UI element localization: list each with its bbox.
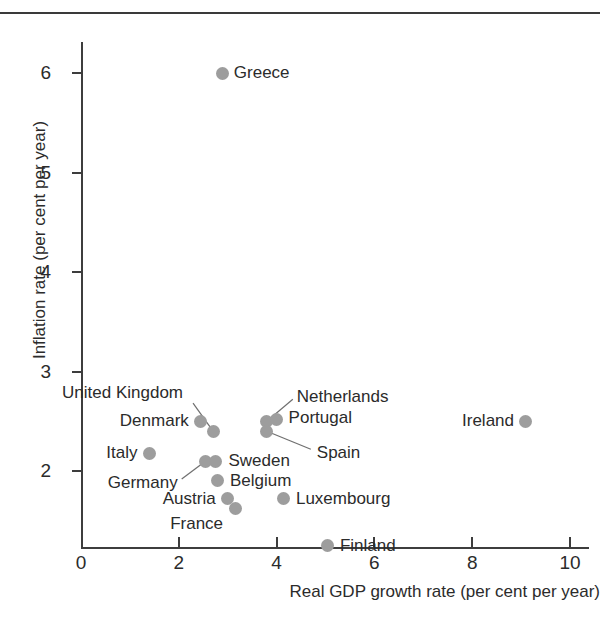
y-tick-label-2: 2 — [25, 461, 51, 480]
x-axis-title: Real GDP growth rate (per cent per year) — [0, 582, 600, 602]
x-tick-label-8: 8 — [452, 553, 492, 572]
data-point-portugal — [270, 413, 283, 426]
data-point-united-kingdom — [207, 425, 220, 438]
y-axis-line — [81, 42, 83, 549]
y-tick-2 — [72, 470, 83, 472]
data-point-belgium — [211, 474, 224, 487]
data-point-ireland — [519, 415, 532, 428]
point-label-sweden: Sweden — [228, 451, 289, 470]
point-label-netherlands: Netherlands — [297, 387, 389, 406]
point-label-austria: Austria — [163, 489, 216, 508]
point-label-italy: Italy — [106, 443, 137, 462]
point-label-portugal: Portugal — [289, 408, 352, 427]
point-label-luxembourg: Luxembourg — [296, 489, 391, 508]
point-label-france: France — [170, 514, 223, 533]
x-tick-8 — [471, 537, 473, 548]
label-leader-lines — [0, 0, 607, 618]
point-label-finland: Finland — [340, 536, 396, 555]
scatter-plot-figure: 23456 0246810 GreeceIrelandDenmarkUnited… — [0, 0, 607, 618]
x-tick-label-6: 6 — [354, 553, 394, 572]
data-point-finland — [321, 539, 334, 552]
y-axis-title: Inflation rate (per cent per year) — [30, 80, 50, 400]
x-tick-label-0: 0 — [61, 553, 101, 572]
point-label-greece: Greece — [234, 63, 290, 82]
data-point-spain — [260, 425, 273, 438]
point-label-united-kingdom: United Kingdom — [62, 383, 183, 402]
x-tick-label-4: 4 — [257, 553, 297, 572]
data-point-sweden — [209, 455, 222, 468]
point-label-denmark: Denmark — [120, 411, 189, 430]
data-point-greece — [216, 67, 229, 80]
point-label-spain: Spain — [317, 443, 360, 462]
top-horizontal-rule — [0, 12, 600, 14]
data-point-italy — [143, 447, 156, 460]
data-point-luxembourg — [277, 492, 290, 505]
data-point-denmark — [194, 415, 207, 428]
x-tick-2 — [178, 537, 180, 548]
y-tick-4 — [72, 271, 83, 273]
x-axis-line — [81, 547, 589, 549]
x-tick-label-10: 10 — [550, 553, 590, 572]
x-tick-4 — [276, 537, 278, 548]
y-tick-6 — [72, 72, 83, 74]
x-tick-10 — [569, 537, 571, 548]
point-label-ireland: Ireland — [462, 411, 514, 430]
x-tick-label-2: 2 — [159, 553, 199, 572]
data-point-france — [229, 502, 242, 515]
y-tick-3 — [72, 371, 83, 373]
y-tick-5 — [72, 172, 83, 174]
point-label-belgium: Belgium — [230, 471, 291, 490]
